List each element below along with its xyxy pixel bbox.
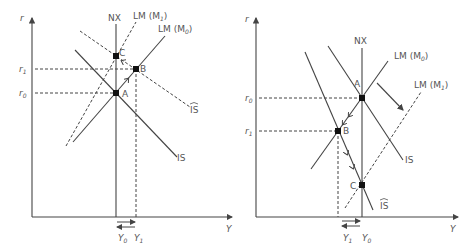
right-x-axis-label: Y xyxy=(450,224,457,234)
left-label-b: B xyxy=(140,64,146,74)
left-lm-m1-curve xyxy=(66,22,136,146)
right-diagram: r Y NX LM (M0) LM (M1) IS IS A xyxy=(245,14,458,244)
left-lm-m0-label: LM (M0) xyxy=(158,24,192,35)
right-tick-y1: Y1 xyxy=(343,233,352,244)
left-label-a: A xyxy=(122,89,129,99)
right-point-b xyxy=(335,128,341,134)
left-is-label: IS xyxy=(177,153,186,163)
left-point-b xyxy=(133,66,139,72)
left-is-hat-label: IS xyxy=(190,105,199,115)
left-lm-m1-label: LM (M1) xyxy=(133,11,167,22)
right-tick-r1: r1 xyxy=(245,126,253,137)
right-nx-label: NX xyxy=(354,36,367,46)
right-arrow-a-to-b-2 xyxy=(343,116,349,124)
right-label-b: B xyxy=(343,126,349,136)
left-x-axis-label: Y xyxy=(226,224,233,234)
right-is-hat-label: IS xyxy=(380,201,389,211)
left-arrow-a-to-b xyxy=(122,79,128,86)
left-tick-r0: r0 xyxy=(19,88,27,99)
right-lm-shift-arrow xyxy=(377,83,403,110)
right-is-label: IS xyxy=(405,155,414,165)
left-point-a xyxy=(113,90,119,96)
left-diagram: r Y NX LM (M0) LM (M1) IS IS A B C r xyxy=(19,11,233,244)
right-lm-m1-label: LM (M1) xyxy=(414,80,448,91)
right-is-hat-accent xyxy=(380,199,388,201)
right-point-c xyxy=(359,182,365,188)
left-label-c: C xyxy=(119,48,125,58)
diagram-canvas: r Y NX LM (M0) LM (M1) IS IS A B C r xyxy=(0,0,476,251)
right-tick-y0: Y0 xyxy=(362,233,372,244)
left-tick-y1: Y1 xyxy=(134,233,143,244)
right-tick-r0: r0 xyxy=(245,93,253,104)
right-lm-m1-curve xyxy=(345,92,421,208)
right-label-c: C xyxy=(350,181,356,191)
left-arrow-b-to-c xyxy=(122,61,128,64)
right-point-a xyxy=(359,95,365,101)
right-lm-m0-label: LM (M0) xyxy=(394,51,428,62)
left-tick-r1: r1 xyxy=(19,64,27,75)
left-tick-y0: Y0 xyxy=(118,233,128,244)
right-y-axis-label: r xyxy=(245,14,250,24)
right-label-a: A xyxy=(354,79,361,89)
left-is-curve xyxy=(75,50,177,157)
right-is-curve xyxy=(328,46,403,160)
left-y-axis-label: r xyxy=(20,13,25,23)
left-is-hat-accent xyxy=(190,103,198,105)
right-arrow-a-to-b-1 xyxy=(349,108,355,116)
left-nx-label: NX xyxy=(108,13,121,23)
